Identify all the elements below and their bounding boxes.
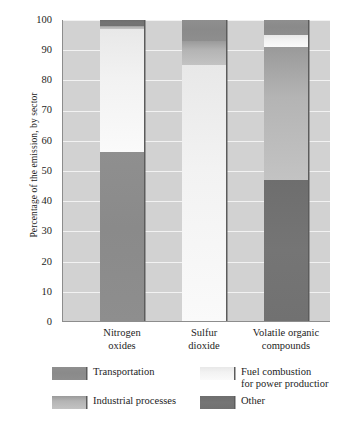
chart-legend: Transportation Fuel combustion for power… xyxy=(52,366,344,419)
y-tick-0: 0 xyxy=(22,317,52,327)
y-tick-80: 80 xyxy=(22,75,52,85)
bar-nitrogen-oxides[interactable] xyxy=(100,20,144,321)
legend-swatch-transportation xyxy=(52,367,86,380)
segment-voc-transportation xyxy=(264,20,308,35)
legend-item-other[interactable]: Other xyxy=(200,395,265,409)
y-tick-30: 30 xyxy=(22,226,52,236)
y-tick-40: 40 xyxy=(22,196,52,206)
y-tick-70: 70 xyxy=(22,105,52,115)
legend-label-fuel-combustion: Fuel combustion for power productior xyxy=(241,366,328,389)
segment-voc-fuel-combustion xyxy=(264,35,308,47)
legend-item-industrial-processes[interactable]: Industrial processes xyxy=(52,395,176,409)
legend-item-transportation[interactable]: Transportation xyxy=(52,366,154,380)
bar-volatile-organic-compounds[interactable] xyxy=(264,20,308,321)
legend-swatch-other xyxy=(200,396,234,409)
x-label-volatile-organic-compounds: Volatile organic compounds xyxy=(226,327,346,352)
y-tick-50: 50 xyxy=(22,166,52,176)
legend-label-industrial-processes: Industrial processes xyxy=(93,395,176,407)
emissions-stacked-bar-chart: Percentage of the emission, by sector 10… xyxy=(0,0,346,425)
segment-sulfur-dioxide-fuel-combustion xyxy=(182,65,226,321)
legend-swatch-industrial-processes xyxy=(52,396,86,409)
segment-nitrogen-oxides-transportation xyxy=(100,152,144,321)
x-axis-line xyxy=(62,321,330,322)
segment-voc-industrial-processes xyxy=(264,47,308,179)
segment-sulfur-dioxide-industrial-processes xyxy=(182,41,226,65)
segment-nitrogen-oxides-industrial-processes xyxy=(100,26,144,29)
bar-sulfur-dioxide[interactable] xyxy=(182,20,226,321)
segment-sulfur-dioxide-transportation xyxy=(182,20,226,41)
legend-row-2: Industrial processes Other xyxy=(52,395,344,419)
segment-nitrogen-oxides-fuel-combustion xyxy=(100,29,144,152)
legend-row-1: Transportation Fuel combustion for power… xyxy=(52,366,344,390)
legend-swatch-fuel-combustion xyxy=(200,367,234,380)
y-tick-60: 60 xyxy=(22,136,52,146)
y-tick-100: 100 xyxy=(22,15,52,25)
y-tick-10: 10 xyxy=(22,287,52,297)
segment-voc-other xyxy=(264,180,308,321)
plot-area xyxy=(62,20,330,322)
legend-label-transportation: Transportation xyxy=(93,366,154,378)
legend-label-other: Other xyxy=(241,395,265,407)
y-tick-20: 20 xyxy=(22,257,52,267)
segment-nitrogen-oxides-other xyxy=(100,20,144,26)
y-axis-line xyxy=(62,20,63,322)
y-axis-title: Percentage of the emission, by sector xyxy=(29,35,39,295)
legend-item-fuel-combustion[interactable]: Fuel combustion for power productior xyxy=(200,366,328,389)
x-label-voc-line1: Volatile organic xyxy=(226,327,346,340)
x-label-voc-line2: compounds xyxy=(226,340,346,353)
y-tick-90: 90 xyxy=(22,45,52,55)
